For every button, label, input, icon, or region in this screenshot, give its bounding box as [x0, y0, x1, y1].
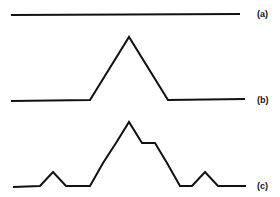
- koch-curve-diagram: [0, 0, 280, 197]
- stage-label-a: (a): [257, 9, 268, 19]
- koch-curve-figure: (a) (b) (c): [0, 0, 280, 197]
- koch-stage-b-polyline: [11, 37, 245, 101]
- stage-label-b: (b): [257, 95, 269, 105]
- koch-stage-c-polyline: [13, 122, 246, 187]
- koch-stage-a-polyline: [11, 14, 240, 15]
- stage-label-c: (c): [257, 181, 268, 191]
